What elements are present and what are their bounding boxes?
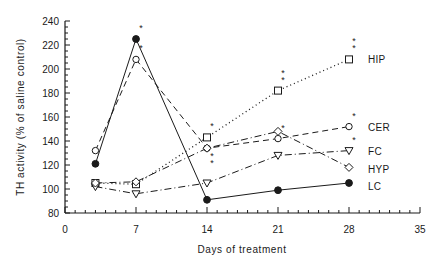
filled-circle-marker-icon <box>133 36 140 43</box>
x-tick-label: 14 <box>201 224 213 235</box>
y-axis-title: TH activity (% of saline control) <box>15 38 26 196</box>
down-triangle-marker-icon <box>132 191 140 198</box>
x-tick-label: 35 <box>414 224 426 235</box>
legend-label-lc: LC <box>368 181 381 192</box>
x-tick-label: 7 <box>133 224 139 235</box>
legend-label-hyp: HYP <box>368 164 389 175</box>
y-tick-label: 180 <box>42 88 59 99</box>
filled-circle-marker-icon <box>92 160 99 167</box>
open-circle-marker-icon <box>275 135 281 141</box>
square-marker-icon <box>204 134 211 141</box>
series-hyp <box>91 127 353 187</box>
y-tick-label: 140 <box>42 136 59 147</box>
x-tick-label: 21 <box>272 224 284 235</box>
series-line <box>95 59 349 150</box>
significance-asterisk: * <box>139 23 143 33</box>
x-tick-label: 28 <box>343 224 355 235</box>
series-line <box>95 39 349 200</box>
series-layer: ************ <box>91 23 356 203</box>
y-tick-label: 120 <box>42 160 59 171</box>
filled-circle-marker-icon <box>204 196 211 203</box>
square-marker-icon <box>346 56 353 63</box>
significance-asterisk: * <box>210 121 214 131</box>
legend-label-fc: FC <box>368 146 382 157</box>
y-tick-label: 100 <box>42 184 59 195</box>
square-marker-icon <box>275 87 282 94</box>
significance-asterisk: * <box>210 158 214 168</box>
open-circle-marker-icon <box>92 147 98 153</box>
significance-asterisk: * <box>352 111 356 121</box>
y-tick-label: 80 <box>48 208 60 219</box>
legend-label-hip: HIP <box>368 54 386 65</box>
series-line <box>95 59 349 184</box>
significance-asterisk: * <box>352 36 356 46</box>
down-triangle-marker-icon <box>203 180 211 187</box>
significance-asterisk: * <box>281 68 285 78</box>
series-lc: * <box>92 23 352 203</box>
y-tick-label: 200 <box>42 64 59 75</box>
filled-circle-marker-icon <box>346 180 353 187</box>
series-hip: ***** <box>92 36 356 187</box>
series-cer: ***** <box>92 43 356 168</box>
filled-circle-marker-icon <box>275 187 282 194</box>
x-tick-label: 0 <box>62 224 68 235</box>
legend-label-cer: CER <box>368 122 390 133</box>
legend: HIPCERFCHYPLC <box>368 54 390 192</box>
y-tick-label: 220 <box>42 40 59 51</box>
down-triangle-marker-icon <box>274 152 282 159</box>
open-circle-marker-icon <box>346 123 352 129</box>
series-line <box>95 131 349 183</box>
y-tick-label: 240 <box>42 16 59 27</box>
x-axis-title: Days of treatment <box>197 244 286 255</box>
significance-asterisk: * <box>352 135 356 145</box>
line-chart: 801001201401601802002202400714212835 ***… <box>0 0 443 269</box>
y-tick-label: 160 <box>42 112 59 123</box>
diamond-marker-icon <box>345 163 353 171</box>
open-circle-marker-icon <box>133 56 139 62</box>
